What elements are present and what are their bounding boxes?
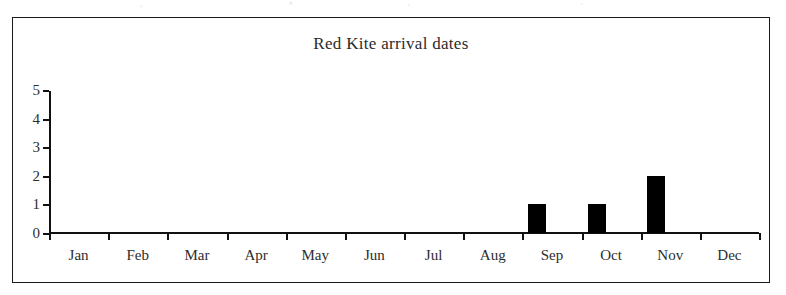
x-axis-tick <box>167 233 169 240</box>
y-axis-label: 3 <box>33 141 41 156</box>
bar <box>528 204 546 233</box>
x-axis-tick <box>759 233 761 240</box>
x-axis-tick <box>345 233 347 240</box>
x-axis-tick <box>700 233 702 240</box>
x-axis-label: Feb <box>127 248 150 263</box>
x-axis-tick <box>463 233 465 240</box>
y-axis-tick <box>43 176 49 178</box>
y-axis-tick <box>43 147 49 149</box>
y-axis-label: 4 <box>33 112 41 127</box>
x-axis-label: Apr <box>244 248 267 263</box>
x-axis-label: May <box>302 248 330 263</box>
y-axis-tick <box>43 119 49 121</box>
y-axis-label: 5 <box>33 83 41 98</box>
x-axis-label: Jan <box>69 248 89 263</box>
x-axis-tick <box>108 233 110 240</box>
bar <box>588 204 606 233</box>
bar <box>647 176 665 233</box>
x-axis-label: Sep <box>541 248 564 263</box>
chart-title: Red Kite arrival dates <box>13 34 769 54</box>
x-axis-tick <box>522 233 524 240</box>
scan-noise-artifact <box>0 0 786 16</box>
y-axis-tick <box>43 204 49 206</box>
y-axis-label: 0 <box>33 226 41 241</box>
x-axis-label: Jul <box>425 248 443 263</box>
x-axis-label: Aug <box>480 248 506 263</box>
plot-area: 012345 JanFebMarAprMayJunJulAugSepOctNov… <box>49 91 759 234</box>
y-axis-tick <box>43 90 49 92</box>
x-axis-tick <box>286 233 288 240</box>
x-axis-tick <box>404 233 406 240</box>
x-axis-tick <box>641 233 643 240</box>
x-axis-label: Dec <box>717 248 741 263</box>
x-axis-label: Oct <box>600 248 622 263</box>
x-axis-tick <box>227 233 229 240</box>
x-axis-tick <box>49 233 51 240</box>
x-axis-tick <box>582 233 584 240</box>
y-axis-label: 1 <box>33 198 41 213</box>
chart-frame: Red Kite arrival dates 012345 JanFebMarA… <box>12 17 770 283</box>
y-axis-line <box>49 91 51 234</box>
x-axis-label: Nov <box>657 248 683 263</box>
y-axis-label: 2 <box>33 169 41 184</box>
x-axis-label: Mar <box>184 248 209 263</box>
x-axis-label: Jun <box>364 248 385 263</box>
